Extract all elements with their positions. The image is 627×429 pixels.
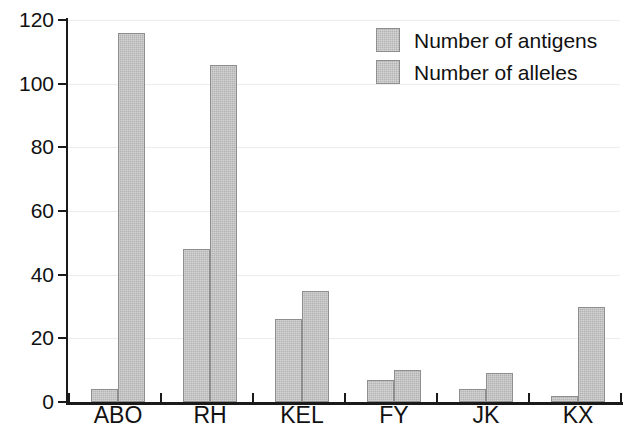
bar-kel-antigens [275,319,302,402]
y-axis-tick [58,83,67,85]
bar-kx-alleles [578,307,605,403]
x-axis-tick [620,393,622,403]
bar-abo-alleles [118,33,145,402]
bar-fy-antigens [367,380,394,402]
legend-swatch-antigens [376,28,400,52]
x-axis-label-rh: RH [160,404,260,427]
x-axis-label-abo: ABO [68,404,168,427]
y-axis-tick-label: 20 [2,327,54,348]
y-axis-tick [58,210,67,212]
bar-jk-antigens [459,389,486,402]
y-axis-tick-label: 100 [2,73,54,94]
y-axis-tick-label: 40 [2,264,54,285]
y-axis-tick [58,401,67,403]
bar-rh-alleles [210,65,237,402]
x-axis-label-kel: KEL [252,404,352,427]
y-axis-tick [58,274,67,276]
y-axis-tick-label: 0 [2,391,54,412]
legend-label-antigens: Number of antigens [414,30,597,51]
legend-item-alleles: Number of alleles [376,58,597,86]
legend-item-antigens: Number of antigens [376,26,597,54]
x-axis-label-kx: KX [528,404,627,427]
legend-label-alleles: Number of alleles [414,62,577,83]
y-axis-tick [58,146,67,148]
x-axis-label-fy: FY [344,404,444,427]
legend: Number of antigens Number of alleles [376,26,597,90]
y-axis-tick [58,19,67,21]
bar-rh-antigens [183,249,210,402]
legend-swatch-alleles [376,60,400,84]
x-axis-label-jk: JK [436,404,536,427]
bar-chart: 020406080100120 ABORHKELFYJKKX Number of… [0,0,627,429]
y-axis-tick [58,337,67,339]
bar-abo-antigens [91,389,118,402]
bar-jk-alleles [486,373,513,402]
bar-fy-alleles [394,370,421,402]
bar-kel-alleles [302,291,329,402]
y-axis-tick-label: 60 [2,200,54,221]
y-axis-tick-label: 80 [2,136,54,157]
y-axis-tick-label: 120 [2,9,54,30]
